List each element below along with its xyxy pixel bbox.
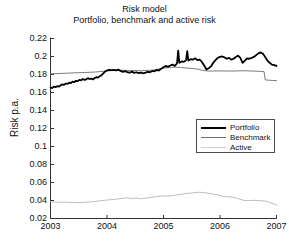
series-line-active xyxy=(51,192,277,205)
legend-swatch-portfolio xyxy=(201,127,226,129)
series-line-benchmark xyxy=(51,67,277,81)
legend-swatch-benchmark xyxy=(201,137,226,138)
legend-label-active: Active xyxy=(230,142,252,153)
chart-figure: Risk model Portfolio, benchmark and acti… xyxy=(0,0,289,242)
legend-swatch-active xyxy=(201,147,226,148)
legend-item-active: Active xyxy=(197,142,276,153)
chart-legend: Portfolio Benchmark Active xyxy=(196,119,275,153)
series-line-portfolio xyxy=(51,51,277,88)
